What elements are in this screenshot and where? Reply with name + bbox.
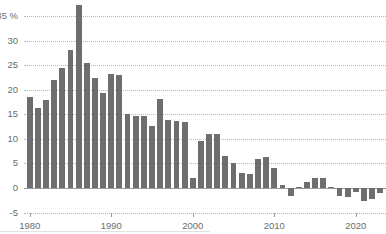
x-axis-tick-label: 2010 — [264, 221, 285, 231]
bar — [353, 188, 359, 192]
bar — [174, 121, 180, 188]
y-axis-tick-label: 25 — [0, 60, 18, 70]
bar — [312, 178, 318, 188]
bar — [108, 74, 114, 188]
bar — [247, 174, 253, 188]
bar — [133, 116, 139, 188]
gridline — [24, 213, 386, 214]
bar — [68, 50, 74, 188]
bar — [377, 188, 383, 193]
x-axis-tick-label: 2000 — [182, 221, 203, 231]
bar — [141, 116, 147, 188]
bar — [149, 126, 155, 188]
bar — [116, 75, 122, 188]
bar — [239, 173, 245, 188]
bar — [59, 68, 65, 188]
bar — [206, 134, 212, 188]
bar-chart: -505101520253035 %19801990200020102020 — [0, 0, 386, 234]
y-axis-tick-label: 20 — [0, 85, 18, 95]
x-axis-tick-label: 1990 — [101, 221, 122, 231]
bar — [320, 178, 326, 188]
bar — [43, 100, 49, 188]
bar — [304, 182, 310, 188]
x-axis-tick-mark — [356, 213, 357, 217]
bar — [182, 122, 188, 188]
bar — [27, 97, 33, 188]
bar — [92, 78, 98, 188]
x-axis-tick-mark — [111, 213, 112, 217]
bar — [361, 188, 367, 201]
y-axis-tick-label: 35 % — [0, 11, 18, 21]
bar — [35, 108, 41, 188]
bar — [100, 93, 106, 188]
y-axis-tick-label: 0 — [0, 183, 18, 193]
bar — [271, 168, 277, 188]
y-axis-tick-label: 15 — [0, 109, 18, 119]
x-axis-tick-mark — [30, 213, 31, 217]
bar — [84, 63, 90, 188]
bar — [231, 163, 237, 188]
bar — [125, 114, 131, 188]
x-axis-tick-mark — [274, 213, 275, 217]
bar — [288, 188, 294, 196]
y-axis-tick-label: -5 — [0, 208, 18, 218]
y-axis-tick-label: 30 — [0, 36, 18, 46]
bar — [222, 156, 228, 188]
bar — [157, 99, 163, 188]
bar — [214, 134, 220, 188]
bar — [190, 178, 196, 188]
bar — [165, 120, 171, 188]
bar — [328, 187, 334, 188]
bar — [51, 80, 57, 188]
x-axis-tick-mark — [193, 213, 194, 217]
bar — [76, 5, 82, 188]
bar — [369, 188, 375, 199]
y-axis-tick-label: 10 — [0, 134, 18, 144]
bar — [280, 185, 286, 188]
bar — [198, 141, 204, 188]
bottom-divider — [0, 231, 210, 232]
bar — [345, 188, 351, 197]
plot-area: -505101520253035 %19801990200020102020 — [24, 0, 386, 212]
x-axis-tick-label: 2020 — [345, 221, 366, 231]
bar — [263, 157, 269, 188]
zero-axis-line — [24, 188, 386, 189]
bar — [255, 159, 261, 188]
bar — [337, 188, 343, 196]
bar — [296, 187, 302, 188]
y-axis-tick-label: 5 — [0, 158, 18, 168]
x-axis-tick-label: 1980 — [19, 221, 40, 231]
